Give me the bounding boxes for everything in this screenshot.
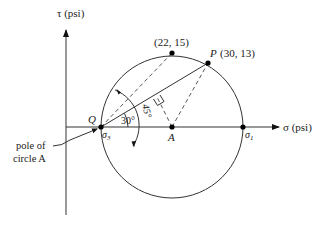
- arc-arrow-upper: [117, 89, 122, 95]
- tau-axis-label: τ (psi): [57, 7, 85, 20]
- label-q: Q: [88, 113, 96, 125]
- label-sigma3: σ3: [102, 129, 111, 142]
- callout-arrow: [53, 129, 97, 146]
- label-point-22-15: (22, 15): [154, 36, 189, 49]
- point-p: [205, 60, 210, 65]
- line-q-to-p: [101, 63, 208, 127]
- label-p-coords: (30, 13): [220, 47, 255, 60]
- angle-label-30: 30°: [121, 115, 135, 126]
- callout-line-2: circle A: [13, 153, 46, 164]
- label-p: P: [209, 47, 217, 59]
- label-a: A: [167, 131, 175, 143]
- point-22-15: [169, 50, 174, 55]
- dashed-line-a-to-p: [172, 63, 208, 127]
- callout-line-1: pole of: [16, 140, 46, 151]
- angle-label-45: 45°: [140, 103, 154, 119]
- sigma-axis-label: σ (psi): [283, 121, 312, 134]
- mohr-circle-diagram: τ (psi) σ (psi) 30° 45° (22, 15) P (30, …: [0, 0, 325, 225]
- arc-arrow-lower: [132, 141, 137, 148]
- label-sigma1: σ1: [245, 129, 253, 142]
- point-a: [169, 124, 174, 129]
